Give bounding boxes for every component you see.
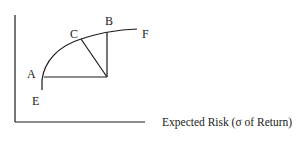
diagonal-line-c (81, 39, 107, 77)
label-e: E (32, 94, 39, 108)
label-f: F (142, 27, 149, 41)
label-c: C (70, 27, 78, 41)
label-b: B (105, 14, 113, 28)
x-axis-label: Expected Risk (σ of Return) (162, 116, 292, 129)
frontier-curve (42, 29, 137, 90)
label-a: A (27, 67, 36, 81)
efficient-frontier-diagram: A E C B F Expected Risk (σ of Return) (0, 0, 307, 141)
